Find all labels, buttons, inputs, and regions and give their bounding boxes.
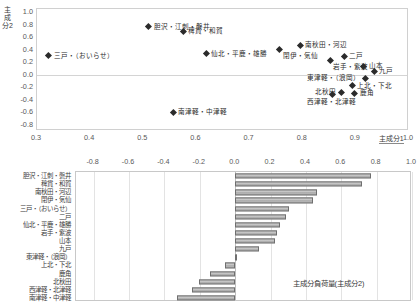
- bar-category-label: 稗貫・和賀: [41, 180, 71, 187]
- bar-x-axis-ticks: -0.8-0.6-0.4-0.20.00.20.40.60.81.0: [0, 157, 417, 170]
- scatter-point-label: 二戸: [349, 52, 363, 59]
- scatter-point-marker: [351, 90, 358, 97]
- bar[interactable]: [235, 190, 316, 195]
- scatter-point-label: 南津軽・中津軽: [178, 108, 227, 115]
- bar-x-tick: 0.2: [265, 157, 275, 166]
- bar[interactable]: [235, 255, 237, 260]
- bar[interactable]: [235, 206, 289, 211]
- bar-category-label: 閉伊・気仙: [41, 196, 71, 203]
- bar-x-tick: 0.6: [335, 157, 345, 166]
- bar-category-label: 鹿角: [59, 269, 71, 276]
- scatter-chart-panel: 主成分2 1.00.80.60.40.20.0-0.2-0.4-0.6-0.8 …: [0, 0, 417, 155]
- scatter-y-tick: 1.0: [7, 7, 33, 16]
- bar-category-label: 仙北・平鹿・雄勝: [23, 220, 71, 227]
- bar[interactable]: [225, 263, 235, 268]
- scatter-y-tick: -0.2: [7, 82, 33, 91]
- scatter-point-label: 九戸: [379, 67, 393, 74]
- bar-category-label: 東津軽・（浪岡）: [26, 253, 71, 260]
- scatter-point-marker: [338, 89, 345, 96]
- scatter-point-marker: [203, 50, 210, 57]
- scatter-point-label: 東津軽・（浪岡）: [307, 74, 360, 81]
- bar-category-label: 南秋田・河辺: [35, 188, 71, 195]
- bar[interactable]: [210, 271, 236, 276]
- bar[interactable]: [235, 182, 362, 187]
- bar-category-label: 岩手・紫波: [41, 228, 71, 235]
- bar-x-tick: -0.4: [157, 157, 169, 166]
- scatter-y-tick: -0.8: [7, 119, 33, 128]
- bar-category-label: 胆沢・江刺・磐井: [23, 172, 71, 179]
- scatter-point-marker: [145, 23, 152, 30]
- bar-category-labels: 胆沢・江刺・磐井稗貫・和賀南秋田・河辺閉伊・気仙三戸・（おいらせ）二戸仙北・平鹿…: [0, 171, 74, 301]
- bar-gridline: [164, 172, 165, 300]
- scatter-point-label: 三戸・（おいらせ）: [54, 52, 114, 59]
- scatter-point-marker: [329, 91, 336, 98]
- scatter-y-tick: 0.4: [7, 44, 33, 53]
- bar-category-label: 二戸: [59, 212, 71, 219]
- bar-chart-panel: -0.8-0.6-0.4-0.20.00.20.40.60.81.0 胆沢・江刺…: [0, 155, 417, 307]
- scatter-point-label: 南秋田・河辺: [305, 41, 347, 48]
- bar-category-label: 山本: [59, 237, 71, 244]
- bar[interactable]: [192, 287, 235, 292]
- scatter-point-label: 西津軽・北津軽: [307, 98, 356, 105]
- bar-category-label: 北秋田: [53, 277, 71, 284]
- scatter-y-tick: 0.0: [7, 69, 33, 78]
- bar[interactable]: [177, 295, 235, 300]
- bar[interactable]: [235, 230, 277, 235]
- bar-gridline: [129, 172, 130, 300]
- bar-x-tick: 0.0: [229, 157, 239, 166]
- scatter-y-tick: 0.2: [7, 57, 33, 66]
- bar-gridline: [377, 172, 378, 300]
- bar[interactable]: [235, 214, 286, 219]
- scatter-x-tick: 0.7: [243, 133, 253, 142]
- scatter-point-label: 閉伊・気仙: [283, 52, 318, 59]
- bar-x-tick: -0.6: [122, 157, 134, 166]
- scatter-y-axis-ticks: 1.00.80.60.40.20.0-0.2-0.4-0.6-0.8: [5, 0, 33, 155]
- bar-category-label: 上北・下北: [41, 261, 71, 268]
- bar-category-label: 南津軽・中津軽: [29, 293, 71, 300]
- scatter-point-label: 鹿角: [360, 89, 374, 96]
- scatter-point-label: 仙北・平鹿・雄勝: [211, 50, 267, 57]
- scatter-point-marker: [341, 53, 348, 60]
- bar-category-label: 三戸・（おいらせ）: [20, 204, 71, 211]
- scatter-y-tick: -0.6: [7, 107, 33, 116]
- scatter-point-marker: [297, 42, 304, 49]
- bar-x-tick: 0.8: [371, 157, 381, 166]
- bar[interactable]: [235, 198, 313, 203]
- bar-x-tick: 0.4: [300, 157, 310, 166]
- bar-axis-title: 主成分負荷量(主成分2): [293, 277, 365, 288]
- bar[interactable]: [235, 247, 259, 252]
- scatter-point-marker: [362, 75, 369, 82]
- scatter-point-marker: [45, 52, 52, 59]
- bar-category-label: 九戸: [59, 245, 71, 252]
- bar[interactable]: [235, 238, 275, 243]
- bar[interactable]: [235, 173, 371, 178]
- scatter-x-tick: 0.9: [350, 133, 360, 142]
- bar[interactable]: [199, 279, 235, 284]
- scatter-x-axis-ticks: 0.30.40.50.60.70.80.91.0主成分1: [0, 133, 417, 147]
- bar-category-label: 西津軽・北津軽: [29, 285, 71, 292]
- scatter-point-label: 上北・下北: [357, 82, 392, 89]
- scatter-x-tick: 0.4: [84, 133, 94, 142]
- scatter-x-tick: 0.8: [297, 133, 307, 142]
- scatter-point-marker: [170, 109, 177, 116]
- scatter-y-tick: -0.4: [7, 94, 33, 103]
- scatter-x-tick: 0.6: [190, 133, 200, 142]
- scatter-y-tick: 0.6: [7, 32, 33, 41]
- bar-x-tick: -0.2: [193, 157, 205, 166]
- bar-gridline: [412, 172, 413, 300]
- scatter-y-tick: 0.8: [7, 19, 33, 28]
- scatter-x-tick: 1.0: [403, 133, 413, 142]
- scatter-x-tick: 0.3: [31, 133, 41, 142]
- bar[interactable]: [235, 222, 280, 227]
- scatter-x-axis-title: 主成分1: [379, 133, 404, 144]
- bar-gridline: [94, 172, 95, 300]
- scatter-x-tick: 0.5: [137, 133, 147, 142]
- scatter-plot-area: 胆沢・江刺・磐井稗貫・和賀三戸・（おいらせ）南秋田・河辺閉伊・気仙仙北・平鹿・雄…: [36, 8, 408, 130]
- bar-x-tick: 1.0: [406, 157, 416, 166]
- scatter-point-marker: [349, 82, 356, 89]
- scatter-point-label: 稗貫・和賀: [188, 27, 223, 34]
- bar-x-tick: -0.8: [86, 157, 98, 166]
